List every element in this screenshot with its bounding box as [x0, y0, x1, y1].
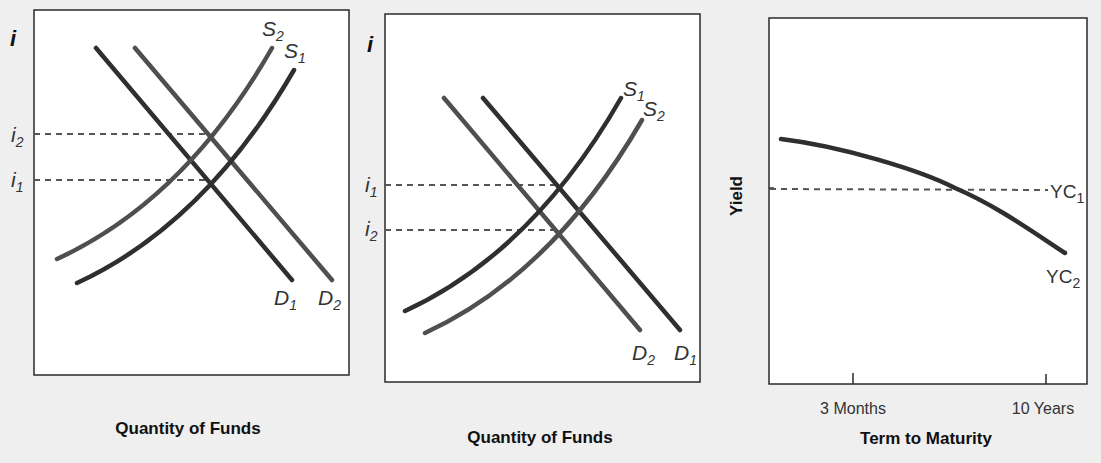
panel-2-y-axis-label: i: [367, 32, 374, 57]
panel-1-supply-demand: i i2 i1 S2 S1 D1 D2 Quantity of Funds: [10, 10, 349, 438]
panel-3-tick-label-3-months: 3 Months: [820, 400, 886, 417]
figure: i i2 i1 S2 S1 D1 D2 Quantity of Funds i …: [0, 0, 1101, 463]
panel-3-y-axis-label: Yield: [727, 176, 746, 216]
panel-3-tick-label-10-years: 10 Years: [1012, 400, 1074, 417]
panel-2-lower-rate-label: i2: [365, 217, 378, 244]
panel-3-x-axis-label: Term to Maturity: [860, 429, 992, 448]
panel-2-upper-rate-label: i1: [365, 173, 377, 200]
panel-1-x-axis-label: Quantity of Funds: [115, 419, 260, 438]
panel-2-supply-demand: i i1 i2 S1 S2 D2 D1 Quantity of Funds: [365, 14, 700, 447]
panel-1-upper-rate-label: i2: [11, 123, 24, 150]
panel-3-yield-curve: Yield YC1 YC2 3 Months 10 Years Term to …: [727, 18, 1087, 448]
panel-1-lower-rate-label: i1: [11, 168, 23, 195]
panel-1-y-axis-label: i: [10, 26, 17, 51]
panel-2-plot-area: [385, 14, 700, 382]
panel-3-plot-area: [769, 18, 1087, 384]
panel-2-x-axis-label: Quantity of Funds: [467, 428, 612, 447]
